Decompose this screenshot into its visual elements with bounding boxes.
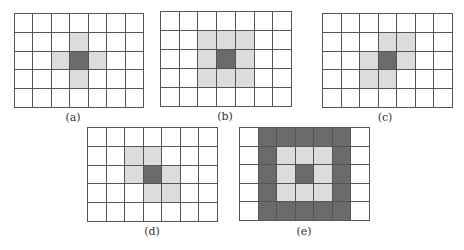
empty-cell	[255, 50, 274, 69]
neighbor-cell	[314, 147, 333, 166]
empty-cell	[434, 33, 453, 52]
empty-cell	[240, 147, 259, 166]
empty-cell	[351, 202, 370, 221]
neighbor-cell	[236, 69, 255, 88]
empty-cell	[273, 69, 292, 88]
empty-cell	[144, 128, 163, 147]
empty-cell	[240, 184, 259, 203]
neighbor-cell	[397, 52, 416, 71]
empty-cell	[161, 88, 180, 107]
empty-cell	[33, 14, 51, 33]
empty-cell	[180, 50, 199, 69]
center-cell	[144, 166, 163, 185]
neighbor-cell	[277, 147, 296, 166]
empty-cell	[126, 52, 144, 71]
empty-cell	[88, 166, 107, 185]
empty-cell	[107, 203, 126, 222]
caption-a: (a)	[65, 111, 80, 124]
center-cell	[333, 202, 352, 221]
empty-cell	[162, 147, 181, 166]
empty-cell	[240, 202, 259, 221]
empty-cell	[107, 52, 125, 71]
empty-cell	[162, 203, 181, 222]
empty-cell	[217, 12, 236, 31]
empty-cell	[416, 70, 435, 89]
empty-cell	[416, 14, 435, 33]
empty-cell	[126, 89, 144, 108]
empty-cell	[236, 88, 255, 107]
empty-cell	[126, 33, 144, 52]
neighbor-cell	[296, 147, 315, 166]
empty-cell	[89, 14, 107, 33]
empty-cell	[15, 52, 33, 71]
empty-cell	[161, 31, 180, 50]
empty-cell	[161, 12, 180, 31]
empty-cell	[360, 14, 379, 33]
empty-cell	[52, 70, 70, 89]
neighbor-cell	[277, 184, 296, 203]
empty-cell	[255, 88, 274, 107]
center-cell	[217, 50, 236, 69]
empty-cell	[15, 33, 33, 52]
empty-cell	[107, 128, 126, 147]
neighbor-cell	[379, 33, 398, 52]
empty-cell	[181, 203, 200, 222]
empty-cell	[255, 12, 274, 31]
empty-cell	[342, 33, 361, 52]
empty-cell	[434, 14, 453, 33]
caption-b: (b)	[217, 110, 233, 123]
center-cell	[314, 202, 333, 221]
neighbor-cell	[70, 70, 88, 89]
empty-cell	[181, 147, 200, 166]
empty-cell	[107, 184, 126, 203]
empty-cell	[52, 33, 70, 52]
empty-cell	[88, 128, 107, 147]
empty-cell	[88, 147, 107, 166]
neighbor-cell	[277, 165, 296, 184]
neighbor-cell	[198, 50, 217, 69]
empty-cell	[351, 184, 370, 203]
center-cell	[379, 52, 398, 71]
neighbor-cell	[236, 50, 255, 69]
center-cell	[70, 52, 88, 71]
empty-cell	[33, 33, 51, 52]
neighbor-cell	[125, 147, 144, 166]
neighbor-cell	[89, 52, 107, 71]
empty-cell	[198, 88, 217, 107]
empty-cell	[161, 50, 180, 69]
empty-cell	[360, 89, 379, 108]
empty-cell	[217, 88, 236, 107]
empty-cell	[126, 70, 144, 89]
empty-cell	[397, 70, 416, 89]
caption-d: (d)	[144, 225, 160, 238]
empty-cell	[33, 70, 51, 89]
neighbor-cell	[379, 70, 398, 89]
empty-cell	[323, 33, 342, 52]
center-cell	[333, 184, 352, 203]
center-cell	[314, 128, 333, 147]
empty-cell	[434, 52, 453, 71]
grid-b	[160, 11, 292, 107]
neighbor-cell	[198, 69, 217, 88]
empty-cell	[88, 203, 107, 222]
empty-cell	[162, 128, 181, 147]
empty-cell	[273, 88, 292, 107]
empty-cell	[351, 147, 370, 166]
neighbor-cell	[217, 31, 236, 50]
empty-cell	[33, 89, 51, 108]
empty-cell	[199, 128, 218, 147]
empty-cell	[199, 147, 218, 166]
empty-cell	[351, 165, 370, 184]
empty-cell	[342, 14, 361, 33]
grid-d	[87, 127, 218, 222]
neighbor-cell	[70, 33, 88, 52]
caption-c: (c)	[378, 111, 393, 124]
empty-cell	[107, 14, 125, 33]
empty-cell	[144, 203, 163, 222]
neighbor-cell	[397, 33, 416, 52]
neighbor-cell	[162, 166, 181, 185]
empty-cell	[125, 203, 144, 222]
center-cell	[259, 165, 278, 184]
empty-cell	[397, 14, 416, 33]
empty-cell	[273, 31, 292, 50]
